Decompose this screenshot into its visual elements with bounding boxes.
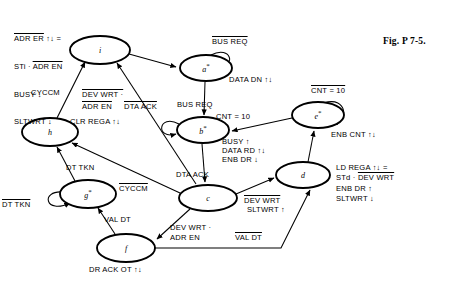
label-ld-rega-d-3: ENB DR ↑ <box>336 184 372 193</box>
label-dr-ack-ot-f: DR ACK OT ↑↓ <box>89 265 142 274</box>
label-val-dt-f-to-d: VAL DT <box>235 233 262 242</box>
edge-d-to-e <box>308 131 314 162</box>
label-data-dn-a: DATA DN ↑↓ <box>229 75 273 84</box>
label-clr-rega-h: CLR REGA ↑↓ <box>70 117 120 126</box>
label-enb-dr-down-b: ENB DR ↓ <box>222 155 258 164</box>
label-ld-rega-d-4: SLTWRT ↓ <box>336 194 374 203</box>
label-dev-wrt-c-to-i-1: DEV WRT · <box>82 90 123 99</box>
edge-i-to-a <box>129 54 176 67</box>
label-cyccm-c-to-h: CYCCM <box>119 184 148 193</box>
label-dev-wrt-c-to-f-1: DEV WRT · <box>170 223 211 232</box>
state-label-a: a* <box>202 62 210 74</box>
state-label-g: g* <box>84 188 92 200</box>
label-bus-req-self-a: BUS REQ <box>212 37 248 46</box>
label-busy-up-b: BUSY ↑ <box>222 137 250 146</box>
output-block-state-i: ADR ER ↑↓ = STi · ADR EN BUSY ↓ SLTWRT ↓ <box>14 16 63 136</box>
state-label-c: c <box>206 194 210 203</box>
dev-wrt-over: DEV WRT <box>358 173 394 182</box>
figure-page: { "figure": { "caption": "Fig. P 7-5.", … <box>0 0 460 288</box>
figure-caption: Fig. P 7-5. <box>383 36 426 46</box>
edge-a-to-b <box>204 82 205 115</box>
label-dt-tkn-g-to-h: DT TKN <box>66 163 94 172</box>
label-val-dt-f-to-g: VAL DT <box>104 215 131 224</box>
label-dt-tkn-self-g: DT TKN <box>2 200 30 209</box>
state-label-b: b* <box>199 124 207 136</box>
state-label-d: d <box>301 171 305 180</box>
sltwrt-down-label: SLTWRT ↓ <box>14 117 63 126</box>
adr-er-suffix: ↑↓ = <box>44 34 61 43</box>
label-data-rd-b: DATA RD ↑↓ <box>222 146 266 155</box>
edges-group <box>48 52 344 248</box>
state-label-i: i <box>99 46 101 55</box>
edge-c-to-d <box>236 178 274 194</box>
label-ld-rega-d-1: LD REGA ↑↓ = <box>336 163 388 172</box>
label-dev-wrt-c-to-d-1: DEV WRT <box>244 196 280 205</box>
std-prefix: STd · <box>336 173 358 182</box>
label-dta-ack-self-b: DTA ACK <box>124 102 157 111</box>
label-ld-rega-d-2: STd · DEV WRT <box>336 173 394 182</box>
label-cyccm-h-to-i: CYCCM <box>31 88 60 97</box>
sti-prefix: STi · <box>14 62 33 71</box>
label-cnt-10-e-to-b: CNT = 10 <box>216 112 250 121</box>
label-dev-wrt-c-to-f-2: ADR EN <box>170 233 200 242</box>
label-dev-wrt-c-to-d-2: SLTWRT ↑ <box>247 205 285 214</box>
label-dta-ack-b-to-c: DTA ACK <box>176 170 209 179</box>
state-label-e: e* <box>314 109 321 121</box>
label-bus-req-a-to-b: BUS REQ <box>177 100 213 109</box>
label-enb-cnt-e: ENB CNT ↑↓ <box>331 130 376 139</box>
label-cnt-10-self-e: CNT = 10 <box>311 86 345 95</box>
label-dev-wrt-c-to-i-2: ADR EN <box>82 102 112 111</box>
state-label-f: f <box>125 244 127 253</box>
